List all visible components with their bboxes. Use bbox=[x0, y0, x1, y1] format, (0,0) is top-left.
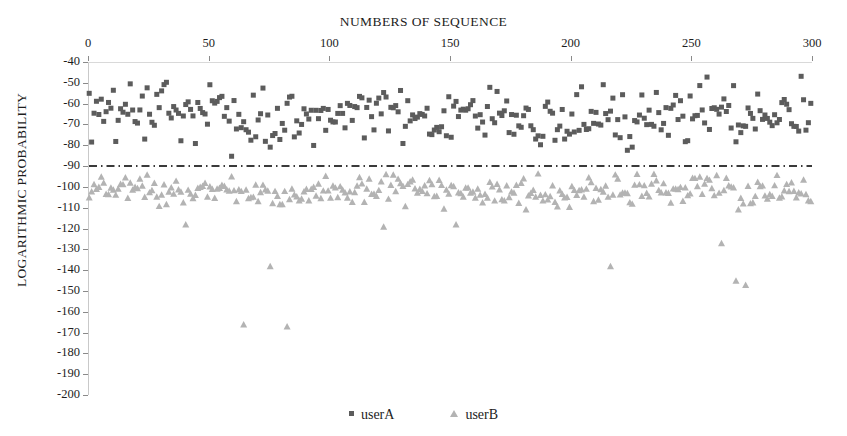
y-tick-label: -130 bbox=[40, 241, 80, 256]
y-tick-label: -70 bbox=[40, 116, 80, 131]
legend-item-userB[interactable]: userB bbox=[450, 406, 498, 423]
y-tick-label: -50 bbox=[40, 75, 80, 90]
x-tick-mark bbox=[450, 56, 451, 61]
y-tick-mark bbox=[83, 62, 88, 63]
x-tick-label: 0 bbox=[68, 36, 108, 51]
x-tick-mark bbox=[209, 56, 210, 61]
x-tick-mark bbox=[88, 56, 89, 61]
y-tick-mark bbox=[83, 124, 88, 125]
y-tick-mark bbox=[83, 270, 88, 271]
x-tick-mark bbox=[329, 56, 330, 61]
y-tick-mark bbox=[83, 208, 88, 209]
plot-area bbox=[88, 62, 812, 395]
y-tick-label: -120 bbox=[40, 221, 80, 236]
y-tick-label: -110 bbox=[40, 200, 80, 215]
y-tick-label: -60 bbox=[40, 96, 80, 111]
x-tick-label: 200 bbox=[551, 36, 591, 51]
y-tick-mark bbox=[83, 249, 88, 250]
legend-label: userA bbox=[361, 407, 394, 422]
y-tick-mark bbox=[83, 333, 88, 334]
x-tick-mark bbox=[571, 56, 572, 61]
y-tick-mark bbox=[83, 353, 88, 354]
y-tick-mark bbox=[83, 83, 88, 84]
y-tick-label: -100 bbox=[40, 179, 80, 194]
y-tick-label: -180 bbox=[40, 345, 80, 360]
y-tick-mark bbox=[83, 291, 88, 292]
y-tick-mark bbox=[83, 312, 88, 313]
y-tick-label: -150 bbox=[40, 283, 80, 298]
y-tick-label: -40 bbox=[40, 54, 80, 69]
legend-label: userB bbox=[465, 407, 498, 422]
y-tick-mark bbox=[83, 229, 88, 230]
y-tick-label: -200 bbox=[40, 387, 80, 402]
y-tick-label: -80 bbox=[40, 137, 80, 152]
x-tick-label: 250 bbox=[671, 36, 711, 51]
legend-square-icon bbox=[349, 411, 354, 416]
x-tick-label: 100 bbox=[309, 36, 349, 51]
y-axis-title: LOGARITHMIC PROBABILITY bbox=[14, 0, 36, 390]
y-tick-label: -140 bbox=[40, 262, 80, 277]
y-tick-mark bbox=[83, 374, 88, 375]
y-tick-label: -190 bbox=[40, 366, 80, 381]
chart-title: NUMBERS OF SEQUENCE bbox=[0, 14, 847, 30]
legend-triangle-icon bbox=[450, 410, 458, 417]
y-tick-label: -170 bbox=[40, 325, 80, 340]
x-tick-label: 300 bbox=[792, 36, 832, 51]
chart-legend: userAuserB bbox=[0, 406, 847, 423]
x-tick-mark bbox=[812, 56, 813, 61]
legend-item-userA[interactable]: userA bbox=[349, 406, 394, 423]
scatter-chart-figure: NUMBERS OF SEQUENCE LOGARITHMIC PROBABIL… bbox=[0, 0, 847, 436]
y-tick-label: -90 bbox=[40, 158, 80, 173]
y-tick-mark bbox=[83, 104, 88, 105]
y-tick-mark bbox=[83, 187, 88, 188]
y-tick-label: -160 bbox=[40, 304, 80, 319]
y-tick-mark bbox=[83, 166, 88, 167]
x-tick-label: 50 bbox=[189, 36, 229, 51]
y-tick-mark bbox=[83, 395, 88, 396]
x-tick-mark bbox=[691, 56, 692, 61]
x-tick-label: 150 bbox=[430, 36, 470, 51]
y-tick-mark bbox=[83, 145, 88, 146]
